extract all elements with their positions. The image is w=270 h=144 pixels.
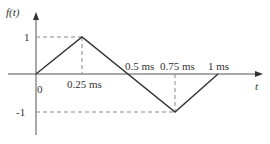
origin-label: 0 — [37, 83, 43, 95]
y-axis-label: f(t) — [6, 6, 20, 19]
x-tick-1: 1 ms — [208, 60, 229, 72]
x-axis-label: t — [255, 80, 259, 92]
x-tick-05: 0.5 ms — [125, 60, 154, 72]
plot-canvas: f(t) t 0 1 -1 0.25 ms 0.5 ms 0.75 ms 1 m… — [0, 0, 270, 144]
triangle-wave-diagram: f(t) t 0 1 -1 0.25 ms 0.5 ms 0.75 ms 1 m… — [0, 0, 270, 144]
y-tick-neg1: -1 — [16, 106, 25, 118]
y-axis-arrow-icon — [33, 12, 39, 20]
x-axis-arrow-icon — [255, 71, 263, 77]
y-tick-1: 1 — [24, 31, 30, 43]
x-tick-075: 0.75 ms — [160, 60, 195, 72]
x-tick-025: 0.25 ms — [67, 78, 102, 90]
